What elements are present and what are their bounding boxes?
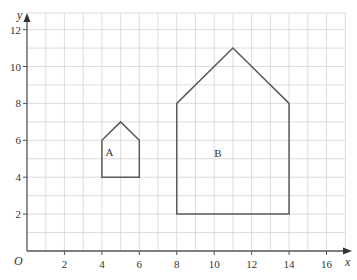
x-tick-label: 8 [174,258,180,270]
x-axis-arrow-icon [343,248,352,255]
y-tick-label: 8 [16,97,22,109]
y-tick-label: 10 [10,61,22,73]
x-tick-label: 2 [62,258,68,270]
grid-lines [27,13,345,251]
y-tick-label: 2 [16,208,22,220]
y-tick-label: 12 [10,24,21,36]
shape-label-a: A [105,146,113,158]
coordinate-grid-diagram: x y O 24681012141624681012 AB [0,0,357,280]
origin-label: O [14,254,23,268]
x-axis-label: x [344,255,351,269]
x-tick-label: 14 [284,258,296,270]
y-tick-label: 4 [16,171,22,183]
x-tick-label: 4 [99,258,105,270]
x-tick-label: 10 [209,258,221,270]
y-tick-label: 6 [16,134,22,146]
x-tick-label: 6 [137,258,143,270]
x-tick-label: 16 [321,258,333,270]
shape-label-b: B [214,147,221,159]
y-axis-arrow-icon [24,13,31,22]
tick-marks: 24681012141624681012 [10,24,333,270]
x-tick-label: 12 [246,258,257,270]
y-axis-label: y [16,8,23,22]
